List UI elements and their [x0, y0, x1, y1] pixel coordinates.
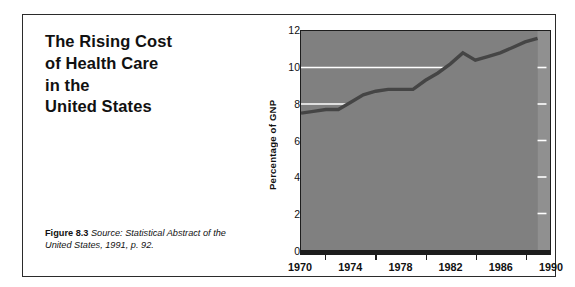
x-minor-tick: [325, 251, 326, 260]
figure-caption-label: Figure 8.3: [45, 228, 88, 238]
x-tick-label: 1982: [439, 261, 463, 273]
chart-region: Percentage of GNP 024681012 197019741978…: [255, 15, 555, 276]
y-tick-label: 12: [278, 24, 300, 36]
figure-title: The Rising Cost of Health Care in the Un…: [45, 31, 250, 118]
x-minor-tick: [375, 251, 376, 260]
area-fill: [301, 38, 538, 250]
plot-area: [300, 30, 551, 251]
y-tick-label: 10: [278, 61, 300, 73]
x-minor-tick: [476, 251, 477, 260]
x-minor-tick: [526, 251, 527, 260]
x-tick-label: 1986: [489, 261, 513, 273]
y-tick-label: 0: [278, 245, 300, 257]
x-tick-label: 1970: [288, 261, 312, 273]
figure-text-column: The Rising Cost of Health Care in the Un…: [33, 15, 255, 276]
x-tick-label: 1974: [338, 261, 362, 273]
figure-title-line-2: of Health Care: [45, 53, 250, 75]
figure-caption: Figure 8.3 Source: Statistical Abstract …: [45, 227, 245, 251]
y-axis-tick-labels: 024681012: [255, 15, 300, 276]
figure-title-line-4: United States: [45, 96, 250, 118]
x-tick-label: 1990: [539, 261, 563, 273]
x-minor-tick: [426, 251, 427, 260]
figure-title-line-1: The Rising Cost: [45, 31, 250, 53]
figure-title-line-3: in the: [45, 75, 250, 97]
figure-frame: The Rising Cost of Health Care in the Un…: [22, 14, 556, 277]
y-tick-label: 2: [278, 208, 300, 220]
x-tick-label: 1978: [388, 261, 412, 273]
y-tick-label: 8: [278, 98, 300, 110]
y-tick-label: 6: [278, 135, 300, 147]
area-chart-svg: [301, 31, 550, 250]
y-tick-label: 4: [278, 171, 300, 183]
